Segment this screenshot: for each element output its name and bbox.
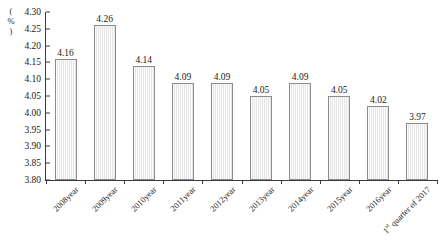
bars-group: 4.164.264.144.094.094.054.094.054.023.97 xyxy=(46,12,437,180)
bar-slot: 4.09 xyxy=(163,12,202,180)
bar-value-label: 3.97 xyxy=(409,112,426,122)
y-axis-tick-label: 3.95 xyxy=(24,125,46,135)
y-axis-tick-label: 4.25 xyxy=(24,24,46,34)
y-axis-tick-label: 4.00 xyxy=(24,108,46,118)
x-axis-category-label: 2014year xyxy=(286,185,315,214)
bar-slot: 4.09 xyxy=(202,12,241,180)
bar-slot: 4.05 xyxy=(320,12,359,180)
bar-value-label: 4.02 xyxy=(370,95,387,105)
bar-slot: 4.05 xyxy=(242,12,281,180)
y-axis-tick-label: 3.85 xyxy=(24,158,46,168)
bar-value-label: 4.16 xyxy=(57,48,74,58)
bar-value-label: 4.14 xyxy=(135,55,152,65)
bar-slot: 4.16 xyxy=(46,12,85,180)
bar-slot: 3.97 xyxy=(398,12,437,180)
y-axis-tick-label: 4.05 xyxy=(24,91,46,101)
bar-value-label: 4.26 xyxy=(96,14,113,24)
bar-value-label: 4.09 xyxy=(175,72,192,82)
x-axis-tick-mark xyxy=(202,180,203,184)
y-axis-tick-label: 4.10 xyxy=(24,74,46,84)
y-axis-unit-label: (%) xyxy=(1,6,15,48)
bar-value-label: 4.09 xyxy=(214,72,231,82)
x-axis-category-label: 2013year xyxy=(247,185,276,214)
x-axis-tick-mark xyxy=(46,180,47,184)
y-axis-tick-label: 4.15 xyxy=(24,57,46,67)
bar-value-label: 4.09 xyxy=(292,72,309,82)
y-axis-tick-label: 3.90 xyxy=(24,141,46,151)
x-axis-category-label: 2011year xyxy=(169,185,198,214)
bar-slot: 4.26 xyxy=(85,12,124,180)
bar[interactable]: 4.02 xyxy=(367,106,389,180)
x-axis-tick-mark xyxy=(281,180,282,184)
x-axis-category-label: 2012year xyxy=(208,185,237,214)
bar[interactable]: 4.09 xyxy=(211,83,233,180)
bar[interactable]: 4.09 xyxy=(289,83,311,180)
bar-value-label: 4.05 xyxy=(253,85,270,95)
x-axis-category-label: 2009year xyxy=(91,185,120,214)
x-axis-tick-mark xyxy=(398,180,399,184)
x-axis-tick-mark xyxy=(437,180,438,184)
x-axis-tick-mark xyxy=(320,180,321,184)
x-axis-category-label: 2016year xyxy=(365,185,394,214)
bar[interactable]: 3.97 xyxy=(406,123,428,180)
bar-slot: 4.02 xyxy=(359,12,398,180)
bar-value-label: 4.05 xyxy=(331,85,348,95)
y-axis-tick-label: 3.80 xyxy=(24,175,46,185)
bar-chart: (%) 4.304.254.204.154.104.054.003.953.90… xyxy=(0,0,442,251)
bar-slot: 4.14 xyxy=(124,12,163,180)
bar[interactable]: 4.05 xyxy=(250,96,272,180)
x-axis-category-label: 2010year xyxy=(130,185,159,214)
x-axis-category-label: 2015year xyxy=(325,185,354,214)
x-axis-category-label: 2008year xyxy=(52,185,81,214)
bar[interactable]: 4.09 xyxy=(172,83,194,180)
y-axis-tick-label: 4.30 xyxy=(24,7,46,17)
bar[interactable]: 4.14 xyxy=(133,66,155,180)
x-axis-tick-mark xyxy=(359,180,360,184)
bar[interactable]: 4.16 xyxy=(55,59,77,180)
y-axis-tick-label: 4.20 xyxy=(24,41,46,51)
bar-slot: 4.09 xyxy=(281,12,320,180)
x-axis-tick-mark xyxy=(163,180,164,184)
bar[interactable]: 4.05 xyxy=(328,96,350,180)
x-axis-tick-mark xyxy=(124,180,125,184)
x-axis-tick-mark xyxy=(242,180,243,184)
bar[interactable]: 4.26 xyxy=(94,25,116,180)
plot-area: 4.304.254.204.154.104.054.003.953.903.85… xyxy=(45,12,437,181)
x-axis-tick-mark xyxy=(85,180,86,184)
